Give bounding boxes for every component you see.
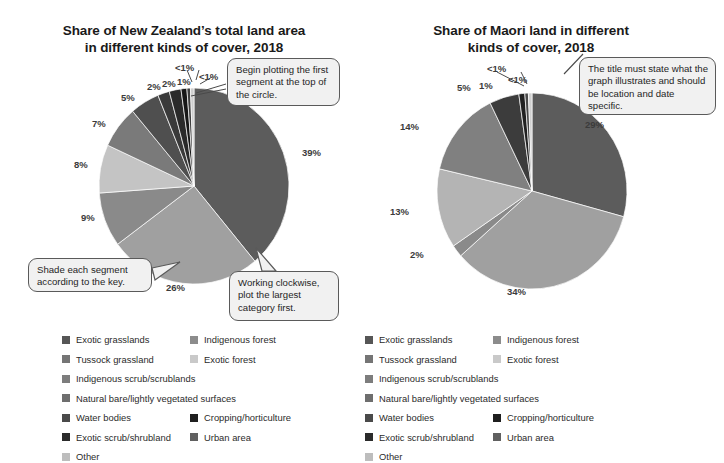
legend-item-exotic-grasslands[interactable]: Exotic grasslands	[62, 334, 149, 345]
pie-percent-label: <1%	[487, 64, 506, 74]
callout-title-must-state: The title must state what the graph illu…	[579, 57, 716, 115]
legend-item-label: Exotic forest	[507, 354, 559, 365]
legend-swatch-icon	[62, 375, 70, 383]
legend-item-label: Natural bare/lightly vegetated surfaces	[76, 393, 236, 404]
pie-percent-label: 2%	[162, 79, 176, 89]
legend-item-exotic-forest[interactable]: Exotic forest	[493, 354, 559, 365]
legend-item-label: Urban area	[204, 432, 251, 443]
callout-working-clockwise: Working clockwise, plot the largest cate…	[229, 271, 339, 321]
legend-item-cropping-horticulture[interactable]: Cropping/horticulture	[493, 412, 594, 423]
pie-percent-label: <1%	[175, 63, 194, 73]
legend-swatch-icon	[493, 433, 501, 441]
legend-item-label: Cropping/horticulture	[507, 412, 594, 423]
legend-item-urban-area[interactable]: Urban area	[190, 432, 251, 443]
pie-percent-label: 8%	[74, 160, 88, 170]
legend-swatch-icon	[493, 414, 501, 422]
legend-item-label: Natural bare/lightly vegetated surfaces	[379, 393, 539, 404]
legend-swatch-icon	[190, 414, 198, 422]
pie-percent-label: 13%	[390, 207, 409, 217]
legend-swatch-icon	[365, 414, 373, 422]
legend-item-other[interactable]: Other	[62, 451, 99, 462]
legend-item-water-bodies[interactable]: Water bodies	[62, 412, 131, 423]
legend-swatch-icon	[365, 433, 373, 441]
callout-shade-each-segment: Shade each segment according to the key.	[28, 258, 152, 292]
legend-item-urban-area[interactable]: Urban area	[493, 432, 554, 443]
legend-item-label: Indigenous scrub/scrublands	[379, 373, 498, 384]
legend-swatch-icon	[62, 355, 70, 363]
legend-item-indigenous-scrub-scrublands[interactable]: Indigenous scrub/scrublands	[62, 373, 195, 384]
legend-swatch-icon	[365, 375, 373, 383]
legend-swatch-icon	[62, 433, 70, 441]
title-right-line1: Share of Maori land in different	[372, 22, 690, 39]
pie-percent-label: 1%	[479, 81, 493, 91]
legend-item-label: Exotic scrub/shrubland	[379, 432, 474, 443]
pie-percent-label: 2%	[410, 250, 424, 260]
legend-item-label: Indigenous scrub/scrublands	[76, 373, 195, 384]
legend-item-label: Exotic scrub/shrubland	[76, 432, 171, 443]
pie-chart-nz-total-land	[96, 88, 292, 284]
legend-item-tussock-grassland[interactable]: Tussock grassland	[62, 354, 154, 365]
pie-percent-label: 7%	[92, 119, 106, 129]
pie-percent-label: 14%	[400, 122, 419, 132]
callout-begin-plotting: Begin plotting the first segment at the …	[227, 58, 340, 106]
callout-begin-plotting-text: Begin plotting the first segment at the …	[236, 64, 328, 100]
legend-item-label: Indigenous forest	[204, 334, 276, 345]
pie-percent-label: 29%	[585, 120, 604, 130]
pie-percent-label: 9%	[81, 213, 95, 223]
pie-percent-label: 5%	[457, 83, 471, 93]
legend-swatch-icon	[365, 355, 373, 363]
legend-swatch-icon	[62, 336, 70, 344]
legend-item-water-bodies[interactable]: Water bodies	[365, 412, 434, 423]
pie-percent-label: <1%	[199, 72, 218, 82]
pie-percent-label: 5%	[121, 93, 135, 103]
legend-swatch-icon	[365, 336, 373, 344]
legend-item-label: Exotic forest	[204, 354, 256, 365]
pie-percent-label: 34%	[507, 287, 526, 297]
legend-item-indigenous-forest[interactable]: Indigenous forest	[190, 334, 276, 345]
legend-item-exotic-forest[interactable]: Exotic forest	[190, 354, 256, 365]
legend-swatch-icon	[365, 394, 373, 402]
legend-item-label: Urban area	[507, 432, 554, 443]
legend-item-label: Water bodies	[76, 412, 131, 423]
title-left-line1: Share of New Zealand’s total land area	[14, 22, 354, 39]
legend-item-label: Other	[76, 451, 99, 462]
pie-percent-label: 26%	[166, 283, 185, 293]
legend-swatch-icon	[190, 355, 198, 363]
legend-item-cropping-horticulture[interactable]: Cropping/horticulture	[190, 412, 291, 423]
page-title-right-chart: Share of Maori land in different kinds o…	[372, 22, 690, 56]
legend-swatch-icon	[493, 355, 501, 363]
legend-swatch-icon	[62, 453, 70, 461]
legend-swatch-icon	[190, 336, 198, 344]
title-right-line2: kinds of cover, 2018	[372, 39, 690, 56]
legend-item-label: Exotic grasslands	[76, 334, 149, 345]
pie-percent-label: 2%	[147, 82, 161, 92]
legend-item-label: Tussock grassland	[76, 354, 154, 365]
legend-swatch-icon	[62, 414, 70, 422]
legend-item-label: Indigenous forest	[507, 334, 579, 345]
callout-shade-text: Shade each segment according to the key.	[37, 264, 128, 287]
legend-item-indigenous-scrub-scrublands[interactable]: Indigenous scrub/scrublands	[365, 373, 498, 384]
title-left-line2: in different kinds of cover, 2018	[14, 39, 354, 56]
legend-swatch-icon	[493, 336, 501, 344]
legend-item-natural-bare-lightly-vegetated-surfaces[interactable]: Natural bare/lightly vegetated surfaces	[365, 393, 539, 404]
page-title-left-chart: Share of New Zealand’s total land area i…	[14, 22, 354, 56]
legend-item-label: Other	[379, 451, 402, 462]
legend-item-label: Tussock grassland	[379, 354, 457, 365]
legend-item-label: Water bodies	[379, 412, 434, 423]
legend-item-exotic-scrub-shrubland[interactable]: Exotic scrub/shrubland	[62, 432, 171, 443]
callout-title-text: The title must state what the graph illu…	[588, 63, 708, 111]
legend-swatch-icon	[190, 433, 198, 441]
legend-swatch-icon	[365, 453, 373, 461]
legend-item-indigenous-forest[interactable]: Indigenous forest	[493, 334, 579, 345]
legend-item-exotic-scrub-shrubland[interactable]: Exotic scrub/shrubland	[365, 432, 474, 443]
pie-percent-label: 39%	[302, 148, 321, 158]
legend-item-exotic-grasslands[interactable]: Exotic grasslands	[365, 334, 452, 345]
legend-item-natural-bare-lightly-vegetated-surfaces[interactable]: Natural bare/lightly vegetated surfaces	[62, 393, 236, 404]
legend-item-other[interactable]: Other	[365, 451, 402, 462]
pie-left-svg	[96, 88, 292, 284]
legend-item-tussock-grassland[interactable]: Tussock grassland	[365, 354, 457, 365]
chart-page: Share of New Zealand’s total land area i…	[0, 0, 724, 463]
pie-percent-label: <1%	[508, 75, 527, 85]
legend-item-label: Cropping/horticulture	[204, 412, 291, 423]
legend-swatch-icon	[62, 394, 70, 402]
